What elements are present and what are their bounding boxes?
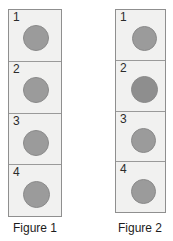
cell-number-label: 2 — [120, 61, 127, 75]
ball-circle[interactable] — [131, 179, 156, 204]
cell-1[interactable]: 1 — [116, 10, 165, 61]
cell-number-label: 1 — [120, 10, 127, 24]
ball-circle[interactable] — [131, 76, 158, 103]
diagram-canvas: 1234Figure 11234Figure 2 — [0, 0, 173, 241]
cell-number-label: 3 — [120, 112, 127, 126]
figure-2-column: 1234 — [115, 9, 166, 213]
cell-2[interactable]: 2 — [116, 61, 165, 112]
cell-4[interactable]: 4 — [116, 162, 165, 212]
cell-3[interactable]: 3 — [116, 112, 165, 163]
ball-circle[interactable] — [131, 128, 156, 153]
cell-number-label: 4 — [120, 162, 127, 176]
ball-circle[interactable] — [132, 26, 157, 51]
figure-2-caption: Figure 2 — [113, 221, 167, 235]
figure-2-group: 1234Figure 2 — [0, 0, 173, 241]
